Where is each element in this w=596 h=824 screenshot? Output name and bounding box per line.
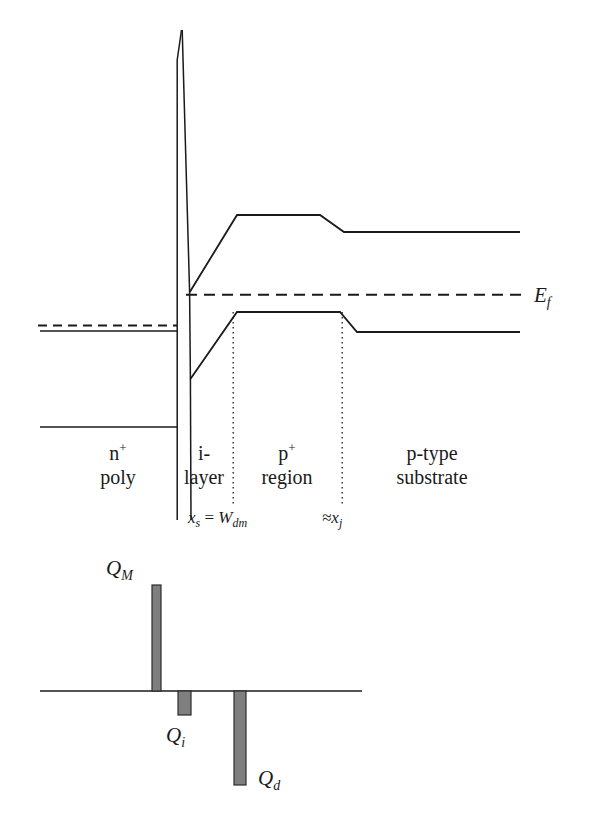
region-label-p-substrate: p-type substrate (362, 442, 502, 489)
fermi-level-subscript: f (547, 295, 551, 310)
region-label-n-poly-line2: poly (100, 466, 136, 488)
fermi-level-symbol: E (534, 283, 547, 307)
axis-mark-xs-wdm: xs = Wdm (188, 508, 247, 528)
region-label-p-substrate-line2: substrate (396, 466, 467, 488)
axis-mark-wdm-subscript: dm (232, 516, 247, 530)
charge-label-qi: Qi (166, 723, 185, 748)
fermi-level-label: Ef (534, 283, 551, 308)
region-label-i-layer-line1: i- (198, 442, 210, 464)
region-label-p-substrate-line1: p-type (406, 442, 457, 464)
i-layer-left-vertical-line (190, 292, 191, 379)
charge-label-qm: QM (106, 556, 133, 581)
charge-label-qi-subscript: i (181, 735, 185, 750)
valence-band-right-curve (190, 312, 520, 379)
region-label-p-region-line1: p (278, 442, 288, 464)
charge-label-qd: Qd (258, 766, 280, 791)
region-label-p-region: p+ region (237, 442, 337, 489)
energy-band-figure (0, 0, 596, 824)
axis-mark-xs-symbol: x (188, 508, 196, 527)
charge-label-qm-subscript: M (121, 568, 133, 583)
region-label-p-region-line2: region (261, 466, 312, 488)
charge-bar-qd (234, 691, 246, 785)
axis-mark-xj-subscript: j (339, 516, 342, 530)
axis-mark-xj-symbol: ≈x (322, 508, 339, 527)
region-label-i-layer: i- layer (164, 442, 244, 489)
conduction-band-right-curve (190, 215, 520, 292)
region-label-n-poly-line1: n (109, 442, 119, 464)
charge-label-qi-symbol: Q (166, 723, 181, 747)
poly-interface-vertical-line (177, 30, 181, 428)
region-label-p-region-sup: + (288, 440, 295, 455)
figure-root: Ef n+ poly i- layer p+ region p-type sub… (0, 0, 596, 824)
charge-label-qm-symbol: Q (106, 556, 121, 580)
charge-label-qd-symbol: Q (258, 766, 273, 790)
region-label-n-poly: n+ poly (68, 442, 168, 489)
axis-mark-wdm-symbol: W (218, 508, 232, 527)
axis-mark-xj: ≈xj (322, 508, 342, 528)
charge-bar-qi (178, 691, 191, 715)
region-label-i-layer-line2: layer (184, 466, 224, 488)
charge-bar-qm (152, 585, 161, 691)
charge-label-qd-subscript: d (273, 778, 280, 793)
charge-diagram-group (40, 585, 362, 785)
region-label-n-poly-sup: + (119, 440, 126, 455)
barrier-spike-right-edge (182, 30, 189, 292)
axis-mark-equals: = (200, 508, 218, 527)
